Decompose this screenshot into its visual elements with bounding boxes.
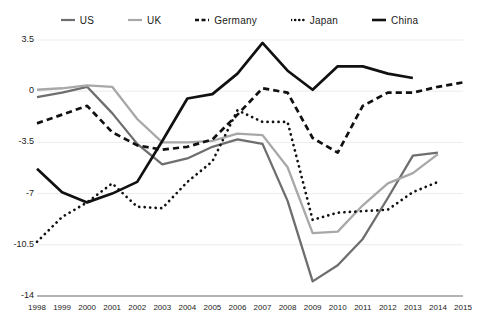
legend-swatch-dotted-icon [291,15,305,25]
plot-area [0,33,479,298]
x-axis-tick-label: 2013 [400,303,426,312]
x-axis-tick-label: 2000 [74,303,100,312]
x-axis-tick-label: 2003 [149,303,175,312]
legend-item-japan[interactable]: Japan [291,15,338,26]
y-axis-tick-label: -7 [0,188,34,198]
line-chart: USUKGermanyJapanChina 199819992000200120… [0,0,479,321]
x-axis-tick-label: 2001 [99,303,125,312]
x-axis-tick-labels: 1998199920002001200220032004200520062007… [0,303,479,317]
legend-swatch-solid-icon [128,15,142,25]
legend-label: US [80,15,94,26]
x-axis-tick-label: 2002 [124,303,150,312]
chart-legend: USUKGermanyJapanChina [0,10,479,30]
y-axis-tick-label: -3.5 [0,136,34,146]
x-axis-tick-label: 2011 [350,303,376,312]
x-axis-tick-label: 2014 [425,303,451,312]
series-line-china [37,43,413,202]
legend-label: Japan [310,15,338,26]
legend-item-uk[interactable]: UK [128,15,161,26]
legend-swatch-solid-icon [61,15,75,25]
x-axis-tick-label: 2005 [199,303,225,312]
legend-swatch-solid-icon [372,15,386,25]
y-axis-tick-label: 3.5 [0,34,34,44]
legend-swatch-dashed-icon [195,15,209,25]
x-axis-tick-label: 2004 [174,303,200,312]
series-line-japan [37,110,438,242]
legend-label: Germany [214,15,257,26]
x-axis-tick-label: 2012 [375,303,401,312]
y-axis-tick-label: 0 [0,85,34,95]
x-axis-tick-label: 2008 [275,303,301,312]
x-axis-tick-label: 2010 [325,303,351,312]
y-axis-tick-label: -14 [0,290,34,300]
legend-item-china[interactable]: China [372,15,418,26]
x-axis-tick-label: 1999 [49,303,75,312]
legend-item-germany[interactable]: Germany [195,15,257,26]
x-axis-tick-label: 1998 [24,303,50,312]
legend-label: China [391,15,418,26]
y-axis-tick-label: -10.5 [0,239,34,249]
x-axis-tick-label: 2015 [450,303,476,312]
gridlines [37,40,463,296]
legend-item-us[interactable]: US [61,15,94,26]
legend-label: UK [147,15,161,26]
series-group [37,43,463,281]
x-axis-tick-label: 2006 [224,303,250,312]
x-axis-tick-label: 2009 [300,303,326,312]
x-axis-tick-label: 2007 [250,303,276,312]
plot-svg [0,33,479,298]
